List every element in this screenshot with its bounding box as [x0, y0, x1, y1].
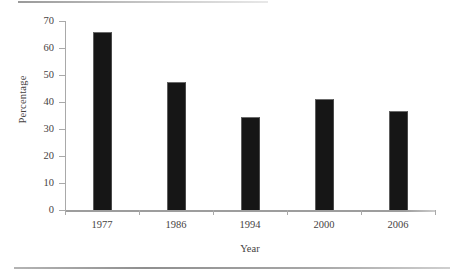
bar	[241, 117, 260, 210]
y-axis-tick-label: 0	[24, 205, 54, 216]
y-axis-line	[65, 21, 66, 211]
x-axis-tick	[65, 210, 66, 215]
x-axis-tick	[139, 210, 140, 215]
y-axis-tick-label: 70	[24, 16, 54, 27]
bar	[389, 111, 408, 210]
y-axis-tick	[59, 156, 65, 157]
y-axis-tick-label: 10	[24, 178, 54, 189]
bar	[315, 99, 334, 210]
y-axis-title: Percentage	[17, 55, 28, 145]
y-axis-tick	[59, 183, 65, 184]
bar	[93, 32, 112, 210]
y-axis-tick	[59, 102, 65, 103]
y-axis-tick	[59, 75, 65, 76]
y-axis-tick-label: 50	[24, 70, 54, 81]
bar	[167, 82, 186, 210]
x-axis-tick-label: 1986	[141, 219, 211, 230]
y-axis-tick	[59, 129, 65, 130]
x-axis-tick	[361, 210, 362, 215]
y-axis-tick-label: 60	[24, 43, 54, 54]
x-axis-line	[65, 210, 435, 212]
x-axis-tick-label: 2000	[289, 219, 359, 230]
y-axis-tick-label: 20	[24, 151, 54, 162]
x-axis-tick-label: 1994	[215, 219, 285, 230]
y-axis-tick	[59, 21, 65, 22]
bottom-page-rule	[14, 267, 450, 269]
y-axis-tick-label: 40	[24, 97, 54, 108]
x-axis-tick	[435, 210, 436, 215]
x-axis-tick	[287, 210, 288, 215]
y-axis-tick-label: 30	[24, 124, 54, 135]
x-axis-title: Year	[180, 243, 320, 254]
y-axis-tick	[59, 48, 65, 49]
x-axis-tick-label: 2006	[363, 219, 433, 230]
x-axis-tick-label: 1977	[67, 219, 137, 230]
x-axis-tick	[213, 210, 214, 215]
bar-chart: 010203040506070 Percentage 1977198619942…	[0, 0, 461, 280]
